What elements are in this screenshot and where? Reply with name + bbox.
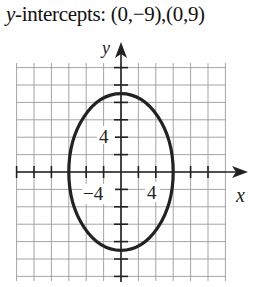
x-tick-label-4: 4 — [147, 182, 157, 203]
x-axis-label: x — [235, 184, 245, 206]
y-tick-label-neg4: −4 — [83, 183, 104, 204]
ellipse-plot: x y 4 −4 4 — [0, 0, 266, 287]
y-tick-label-4: 4 — [99, 126, 109, 147]
y-axis-label: y — [100, 38, 110, 58]
